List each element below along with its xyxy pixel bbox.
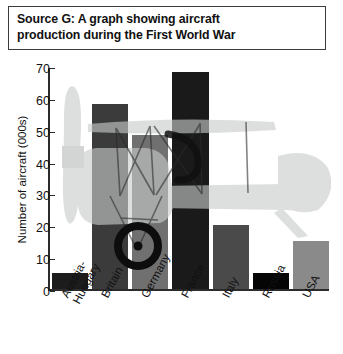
x-axis-label-slot: Italy xyxy=(209,293,249,354)
x-axis-label-slot: USA xyxy=(289,293,329,354)
y-axis-tick-label: 70 xyxy=(20,62,50,74)
bar-slot xyxy=(50,66,90,289)
bar-slot xyxy=(251,66,291,289)
x-axis-label-slot: Austria- Hungary xyxy=(48,293,88,354)
y-axis-tick-mark xyxy=(50,291,55,292)
y-axis-tick-label: 50 xyxy=(20,126,50,138)
x-axis-label-slot: France xyxy=(168,293,208,354)
y-axis-tick-label: 40 xyxy=(20,158,50,170)
bar-britain xyxy=(92,104,128,289)
bar-series xyxy=(50,66,331,289)
x-axis-labels: Austria- HungaryBritainGermanyFranceItal… xyxy=(48,293,329,354)
x-axis-label-slot: Britain xyxy=(88,293,128,354)
y-axis-tick-label: 30 xyxy=(20,189,50,201)
bar-slot xyxy=(291,66,331,289)
y-axis-tick-label: 60 xyxy=(20,94,50,106)
bar-slot xyxy=(90,66,130,289)
bar-slot xyxy=(211,66,251,289)
bar-slot xyxy=(170,66,210,289)
chart-figure: Source G: A graph showing aircraft produ… xyxy=(0,0,343,354)
source-title-box: Source G: A graph showing aircraft produ… xyxy=(8,6,326,50)
x-axis-label-slot: Russia xyxy=(249,293,289,354)
source-title-text: Source G: A graph showing aircraft produ… xyxy=(17,12,318,43)
y-axis-tick-label: 10 xyxy=(20,253,50,265)
x-axis-label-slot: Germany xyxy=(128,293,168,354)
plot-area: Number of aircraft (000s) 01020304050607… xyxy=(48,68,329,291)
y-axis-tick-label: 0 xyxy=(20,285,50,297)
bar-france xyxy=(172,72,208,289)
y-axis-tick-label: 20 xyxy=(20,221,50,233)
